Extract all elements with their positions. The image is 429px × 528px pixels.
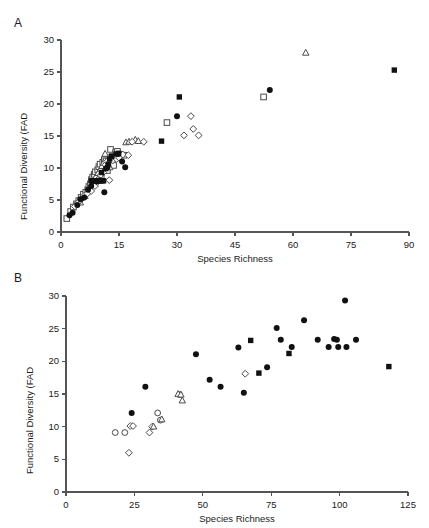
data-point-filled-circle xyxy=(334,337,340,343)
data-point-filled-square xyxy=(159,138,164,143)
y-tick-label: 15 xyxy=(43,130,54,141)
y-tick-label: 5 xyxy=(49,194,54,205)
data-point-open-diamond xyxy=(106,177,113,184)
data-point-filled-circle xyxy=(207,377,213,383)
data-point-filled-circle xyxy=(193,351,199,357)
data-point-filled-circle xyxy=(218,384,224,390)
data-point-open-diamond xyxy=(140,138,147,145)
panel-b-scatter-svg: 0510152025300255075100125Species Richnes… xyxy=(62,296,417,528)
data-point-filled-circle xyxy=(129,410,135,416)
panel-b-plot-area: 0510152025300255075100125Species Richnes… xyxy=(62,296,412,526)
x-tick-label: 60 xyxy=(288,239,299,250)
data-point-filled-circle xyxy=(274,325,280,331)
data-point-filled-square xyxy=(256,370,261,375)
data-point-filled-circle xyxy=(101,189,107,195)
data-point-filled-circle xyxy=(353,337,359,343)
y-tick-label: 20 xyxy=(48,355,59,366)
y-tick-label: 0 xyxy=(54,486,59,497)
x-tick-label: 90 xyxy=(404,239,415,250)
data-point-filled-circle xyxy=(81,194,87,200)
data-point-filled-circle xyxy=(301,317,307,323)
data-point-filled-circle xyxy=(326,344,332,350)
data-point-filled-square xyxy=(286,351,291,356)
x-tick-label: 75 xyxy=(266,499,277,510)
y-tick-label: 30 xyxy=(43,34,54,45)
x-tick-label: 15 xyxy=(114,239,125,250)
data-point-filled-circle xyxy=(174,113,180,119)
data-point-filled-circle xyxy=(335,344,341,350)
panel-a-label: A xyxy=(14,16,22,30)
y-tick-label: 25 xyxy=(43,66,54,77)
data-point-filled-circle xyxy=(289,344,295,350)
data-point-filled-circle xyxy=(70,210,76,216)
data-point-filled-circle xyxy=(235,345,241,351)
panel-a: A Functional Diversity (FAD 051015202530… xyxy=(0,0,429,260)
x-tick-label: 75 xyxy=(346,239,357,250)
x-axis-title: Species Richness xyxy=(199,513,275,524)
data-point-filled-circle xyxy=(241,390,247,396)
x-tick-label: 0 xyxy=(58,239,63,250)
data-point-open-diamond xyxy=(242,370,249,377)
data-point-filled-circle xyxy=(119,159,125,165)
data-point-filled-circle xyxy=(104,164,110,170)
data-point-open-circle xyxy=(112,430,118,436)
y-tick-label: 25 xyxy=(48,323,59,334)
data-point-filled-circle xyxy=(142,384,148,390)
y-tick-label: 10 xyxy=(43,162,54,173)
data-point-open-circle xyxy=(122,430,128,436)
data-point-filled-circle xyxy=(122,164,128,170)
y-tick-label: 0 xyxy=(49,226,54,237)
y-tick-label: 20 xyxy=(43,98,54,109)
data-point-open-square xyxy=(261,94,267,100)
data-point-open-square xyxy=(164,120,170,126)
data-point-filled-circle xyxy=(315,337,321,343)
data-point-filled-circle xyxy=(115,151,121,157)
panel-a-plot-area: 0510152025300153045607590Species Richnes… xyxy=(57,40,412,270)
data-point-filled-square xyxy=(392,67,397,72)
y-tick-label: 15 xyxy=(48,388,59,399)
x-tick-label: 125 xyxy=(400,499,416,510)
data-point-filled-square xyxy=(177,94,182,99)
data-point-filled-circle xyxy=(343,344,349,350)
x-tick-label: 0 xyxy=(63,499,68,510)
data-point-filled-square xyxy=(248,338,253,343)
panel-a-y-axis-title: Functional Diversity (FAD xyxy=(18,113,29,220)
x-tick-label: 30 xyxy=(172,239,183,250)
data-point-open-diamond xyxy=(126,449,133,456)
data-point-filled-square xyxy=(386,364,391,369)
x-tick-label: 100 xyxy=(332,499,348,510)
y-tick-label: 5 xyxy=(54,453,59,464)
data-point-open-diamond xyxy=(190,126,197,133)
data-point-filled-circle xyxy=(267,87,273,93)
panel-b-label: B xyxy=(14,271,22,285)
y-tick-label: 10 xyxy=(48,421,59,432)
panel-b: B Functional Diversity (FAD 051015202530… xyxy=(0,259,429,519)
data-point-filled-circle xyxy=(97,177,103,183)
data-point-filled-circle xyxy=(342,298,348,304)
panel-b-y-axis-title: Functional Diversity (FAD xyxy=(24,367,35,474)
data-point-filled-circle xyxy=(74,202,80,208)
data-point-open-triangle xyxy=(303,49,309,55)
y-tick-label: 30 xyxy=(48,290,59,301)
data-point-open-circle xyxy=(155,410,161,416)
data-point-open-diamond xyxy=(181,132,188,139)
data-point-open-diamond xyxy=(188,113,195,120)
x-tick-label: 45 xyxy=(230,239,241,250)
data-point-filled-circle xyxy=(278,337,284,343)
data-point-filled-circle xyxy=(88,183,94,189)
data-point-open-diamond xyxy=(195,132,202,139)
data-point-filled-circle xyxy=(264,364,270,370)
panel-a-scatter-svg: 0510152025300153045607590Species Richnes… xyxy=(57,40,417,275)
x-tick-label: 25 xyxy=(129,499,140,510)
x-tick-label: 50 xyxy=(198,499,209,510)
